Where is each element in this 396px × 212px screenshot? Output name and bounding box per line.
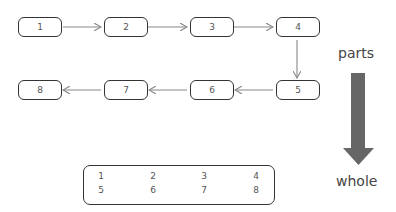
whole-cell: 4 bbox=[249, 171, 263, 181]
parts-label: parts bbox=[338, 45, 374, 61]
node-7: 7 bbox=[104, 80, 148, 100]
whole-cell: 3 bbox=[197, 171, 211, 181]
node-8: 8 bbox=[18, 80, 62, 100]
whole-box bbox=[83, 165, 275, 205]
node-3: 3 bbox=[190, 17, 234, 37]
node-6: 6 bbox=[190, 80, 234, 100]
whole-cell: 6 bbox=[146, 185, 160, 195]
whole-cell: 8 bbox=[249, 185, 263, 195]
node-5: 5 bbox=[276, 80, 320, 100]
whole-label: whole bbox=[336, 173, 377, 189]
whole-cell: 2 bbox=[146, 171, 160, 181]
node-2: 2 bbox=[104, 17, 148, 37]
whole-cell: 1 bbox=[94, 171, 108, 181]
big-down-arrow-icon bbox=[343, 73, 374, 165]
node-4: 4 bbox=[276, 17, 320, 37]
whole-cell: 5 bbox=[94, 185, 108, 195]
node-1: 1 bbox=[18, 17, 62, 37]
whole-cell: 7 bbox=[197, 185, 211, 195]
